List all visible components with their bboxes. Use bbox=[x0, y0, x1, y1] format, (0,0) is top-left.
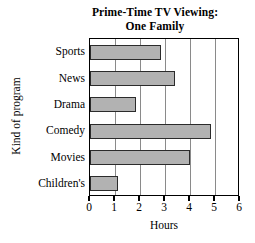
chart-title-line-2: One Family bbox=[60, 20, 250, 34]
x-tick-label-0: 0 bbox=[79, 201, 99, 213]
chart-title: Prime-Time TV Viewing: One Family bbox=[60, 6, 250, 33]
x-axis-title: Hours bbox=[89, 219, 239, 231]
x-tick-label-6: 6 bbox=[229, 201, 249, 213]
gridline-x-2 bbox=[140, 39, 141, 195]
bar-chart-figure: Prime-Time TV Viewing: One Family Kind o… bbox=[0, 0, 255, 243]
x-tick-label-5: 5 bbox=[204, 201, 224, 213]
plot-area bbox=[89, 38, 239, 196]
gridline-x-4 bbox=[190, 39, 191, 195]
category-label-comedy: Comedy bbox=[3, 124, 89, 136]
category-label-children-s: Children's bbox=[3, 177, 89, 189]
category-label-sports: Sports bbox=[3, 45, 89, 57]
bar-movies bbox=[90, 150, 190, 165]
x-tick-label-2: 2 bbox=[129, 201, 149, 213]
bar-drama bbox=[90, 97, 136, 112]
category-label-news: News bbox=[3, 72, 89, 84]
x-tick-label-3: 3 bbox=[154, 201, 174, 213]
bar-news bbox=[90, 71, 175, 86]
chart-title-line-1: Prime-Time TV Viewing: bbox=[60, 6, 250, 20]
gridline-x-5 bbox=[215, 39, 216, 195]
gridline-x-3 bbox=[165, 39, 166, 195]
bar-children-s bbox=[90, 176, 118, 191]
x-tick-label-4: 4 bbox=[179, 201, 199, 213]
plot-inner bbox=[90, 39, 238, 195]
category-label-movies: Movies bbox=[3, 151, 89, 163]
bar-sports bbox=[90, 45, 161, 60]
category-label-drama: Drama bbox=[3, 98, 89, 110]
gridline-x-1 bbox=[115, 39, 116, 195]
x-tick-label-1: 1 bbox=[104, 201, 124, 213]
bar-comedy bbox=[90, 124, 211, 139]
